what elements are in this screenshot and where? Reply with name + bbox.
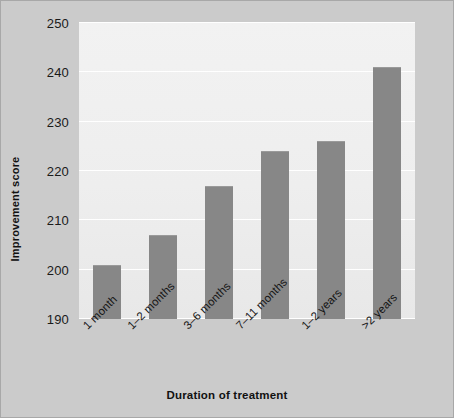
plot-area xyxy=(79,23,415,319)
x-axis-tick-labels: 1 month1–2 months3–6 months7–11 months1–… xyxy=(79,321,415,383)
y-axis-tick-label: 250 xyxy=(47,16,69,31)
bar-series xyxy=(79,23,415,319)
x-tick-slot: 1–2 years xyxy=(303,321,359,383)
y-axis-tick-labels: 190200210220230240250 xyxy=(1,1,75,417)
y-axis-tick-label: 190 xyxy=(47,312,69,327)
bar-slot xyxy=(247,23,303,319)
x-tick-slot: 7–11 months xyxy=(247,321,303,383)
y-axis-tick-label: 220 xyxy=(47,164,69,179)
bar-slot xyxy=(135,23,191,319)
y-axis-tick-label: 230 xyxy=(47,114,69,129)
y-axis-tick-label: 240 xyxy=(47,65,69,80)
x-axis-title: Duration of treatment xyxy=(1,389,453,401)
bar-slot xyxy=(359,23,415,319)
bar-slot xyxy=(303,23,359,319)
bar-slot xyxy=(79,23,135,319)
bar[interactable] xyxy=(373,67,401,319)
x-tick-slot: 1 month xyxy=(79,321,135,383)
x-tick-slot: >2 years xyxy=(359,321,415,383)
y-axis-tick-label: 200 xyxy=(47,262,69,277)
bar-slot xyxy=(191,23,247,319)
x-tick-slot: 3–6 months xyxy=(191,321,247,383)
bar-chart-figure: Improvement score 190200210220230240250 … xyxy=(0,0,454,418)
x-tick-slot: 1–2 months xyxy=(135,321,191,383)
y-axis-tick-label: 210 xyxy=(47,213,69,228)
